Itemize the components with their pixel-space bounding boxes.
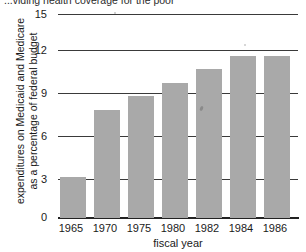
x-tick-1986: 1986 xyxy=(251,222,299,234)
y-axis-label-line2: as a percentage of federal budget xyxy=(27,5,40,217)
bar-1980 xyxy=(162,83,188,218)
gridline-15 xyxy=(58,14,298,15)
clipped-caption: ...viding health coverage for the poor xyxy=(4,0,300,6)
bar-1965 xyxy=(60,177,86,218)
bar-1984 xyxy=(230,56,256,218)
bar-chart-figure: ...viding health coverage for the poor 1… xyxy=(0,0,306,252)
scan-speck xyxy=(114,12,116,14)
bar-1982 xyxy=(196,69,222,218)
caption-text: ...viding health coverage for the poor xyxy=(4,0,300,6)
gridline-12 xyxy=(58,50,298,51)
bar-1975 xyxy=(128,96,154,218)
y-axis-label: expenditures on Medicaid and Medicare as… xyxy=(14,5,44,217)
plot-area: 15 12 9 6 3 0 xyxy=(58,14,298,218)
y-axis-label-line1: expenditures on Medicaid and Medicare xyxy=(14,5,27,217)
scan-speck xyxy=(244,44,246,46)
x-axis-label: fiscal year xyxy=(58,237,298,249)
bar-1970 xyxy=(94,110,120,218)
bar-1986 xyxy=(264,56,290,218)
